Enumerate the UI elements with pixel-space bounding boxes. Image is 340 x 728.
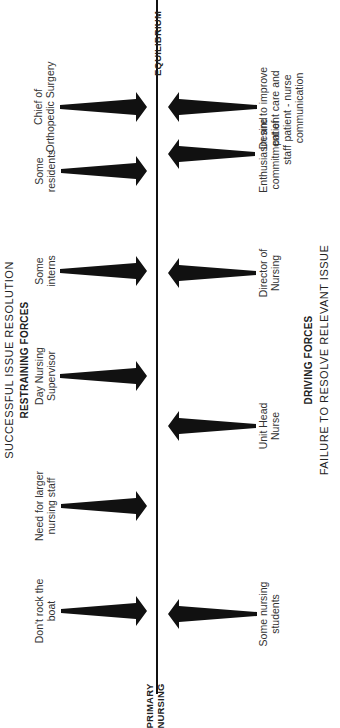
- label-line: staff: [281, 117, 293, 192]
- label-line: communication: [293, 67, 305, 149]
- label-line: Some: [33, 255, 45, 287]
- label-line: Director of: [257, 249, 269, 297]
- restraining-arrow-3: [60, 256, 147, 286]
- label-line: Need for larger: [33, 471, 45, 541]
- label-line: boat: [45, 579, 57, 643]
- driving-arrow-4: [168, 411, 256, 441]
- label-line: Nurse: [269, 403, 281, 450]
- label-line: Day Nursing: [33, 347, 45, 405]
- restraining-label-4: Day Nursing Supervisor: [33, 347, 57, 405]
- restraining-arrow-6b: [61, 596, 147, 626]
- label-line: commitment of: [269, 117, 281, 192]
- driving-arrow-3: [168, 258, 256, 288]
- label-line: students: [269, 582, 281, 647]
- restraining-arrow-2: [61, 156, 147, 186]
- label-line: Chief of: [32, 61, 44, 152]
- driving-arrow-1: [168, 92, 257, 122]
- label-line: Some nursing: [257, 582, 269, 647]
- restraining-label-2: Some residents: [33, 150, 57, 193]
- label-line: Orthopedic Surgery: [44, 61, 56, 152]
- label-line: Enthusiasm and: [257, 117, 269, 192]
- restraining-arrow-1: [60, 92, 147, 122]
- restraining-arrow-4: [60, 361, 147, 391]
- driving-arrow-5: [168, 599, 257, 629]
- label-line: nursing staff: [45, 471, 57, 541]
- label-line: Some: [33, 150, 45, 193]
- restraining-label-3: Some interns: [33, 255, 57, 287]
- driving-label-2: Enthusiasm and commitment of staff: [257, 117, 293, 192]
- driving-label-4: Unit Head Nurse: [257, 403, 281, 450]
- label-line: Don't rock the: [33, 579, 45, 643]
- label-line: residents: [45, 150, 57, 193]
- label-line: Nursing: [269, 249, 281, 297]
- restraining-label-1: Chief of Orthopedic Surgery: [32, 61, 56, 152]
- driving-label-3: Director of Nursing: [257, 249, 281, 297]
- restraining-arrow-5: [61, 491, 147, 521]
- label-line: Unit Head: [257, 403, 269, 450]
- driving-arrow-2: [168, 139, 255, 169]
- label-line: interns: [45, 255, 57, 287]
- force-field-diagram: SUCCESSFUL ISSUE RESOLUTION RESTRAINING …: [0, 0, 340, 728]
- label-line: Supervisor: [45, 347, 57, 405]
- driving-label-5: Some nursing students: [257, 582, 281, 647]
- restraining-label-6: Don't rock the boat: [33, 579, 57, 643]
- restraining-label-5: Need for larger nursing staff: [33, 471, 57, 541]
